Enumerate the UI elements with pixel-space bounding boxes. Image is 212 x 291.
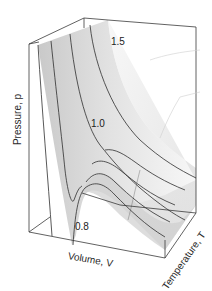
isotherm-label-1-0: 1.0 xyxy=(91,118,105,129)
z-axis-label-pressure: Pressure, p xyxy=(12,94,23,145)
isotherm-label-1-5: 1.5 xyxy=(111,36,125,47)
pressure-surface xyxy=(38,20,196,250)
isotherm-label-0-8: 0.8 xyxy=(75,221,89,232)
